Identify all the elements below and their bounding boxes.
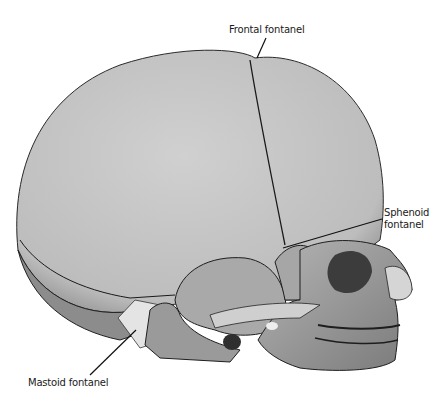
- label-mastoid-fontanel: Mastoid fontanel: [28, 377, 108, 389]
- label-frontal-fontanel: Frontal fontanel: [229, 24, 304, 36]
- label-sphenoid-line2: fontanel: [384, 219, 429, 231]
- frontal-leader: [257, 38, 266, 58]
- external-meatus: [223, 334, 241, 350]
- ear-process: [266, 322, 278, 330]
- skull-drawing: [0, 0, 448, 410]
- skull-illustration: Frontal fontanel Sphenoid fontanel Masto…: [0, 0, 448, 410]
- label-sphenoid-line1: Sphenoid: [384, 207, 429, 219]
- label-sphenoid-fontanel: Sphenoid fontanel: [384, 207, 429, 231]
